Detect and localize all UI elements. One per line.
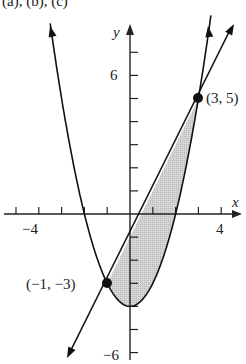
tick-label-6: 6 bbox=[110, 67, 118, 83]
y-axis-label: y bbox=[111, 24, 120, 40]
x-axis bbox=[4, 210, 242, 218]
shaded-region bbox=[107, 99, 198, 307]
graph-figure: (a), (b), (c) x y −4 4 6 −6 (3, 5) (−1, … bbox=[0, 0, 246, 364]
line-lower-arrow-icon bbox=[67, 346, 76, 358]
line-curve bbox=[70, 30, 230, 352]
tick-label-neg4: −4 bbox=[22, 221, 38, 237]
intersection-point-3-5 bbox=[193, 93, 203, 103]
tick-label-neg6: −6 bbox=[103, 347, 119, 363]
intersection-point-neg1-neg3 bbox=[102, 278, 112, 288]
header-text: (a), (b), (c) bbox=[2, 0, 68, 10]
axis-ticks bbox=[16, 52, 221, 352]
point-label-3-5: (3, 5) bbox=[206, 90, 239, 107]
point-label-neg1-neg3: (−1, −3) bbox=[26, 276, 75, 293]
y-axis bbox=[126, 24, 134, 360]
x-axis-label: x bbox=[231, 194, 239, 210]
parabola-left-arrow-icon bbox=[49, 26, 57, 38]
line-upper-arrow-icon bbox=[225, 24, 234, 36]
curves bbox=[49, 15, 234, 358]
tick-label-4: 4 bbox=[216, 221, 224, 237]
